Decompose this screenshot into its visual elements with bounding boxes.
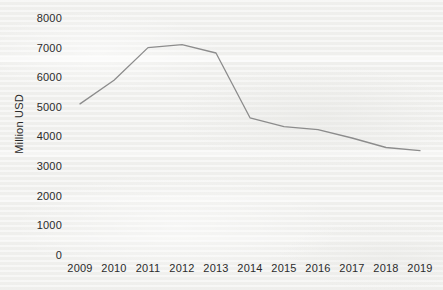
line-chart: Million USD 8000 7000 6000 5000 4000 300… [0,0,443,290]
plot-area [0,0,443,290]
data-series-line [80,45,420,151]
